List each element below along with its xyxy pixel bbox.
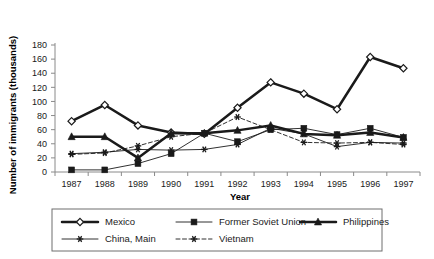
legend-entry-label: Former Soviet Union	[219, 216, 306, 227]
x-axis-tick-label: 1996	[360, 179, 380, 189]
data-point-marker-square	[102, 167, 108, 173]
x-axis-tick-marks	[55, 172, 420, 176]
x-axis-tick-label: 1997	[393, 179, 413, 189]
y-axis-tick-label: 60	[37, 125, 47, 135]
series-mexico	[68, 53, 407, 137]
data-point-marker-square	[191, 219, 197, 225]
legend-entry-former-soviet-union[interactable]: Former Soviet Union	[176, 216, 306, 227]
y-axis-tick-label: 160	[32, 54, 47, 64]
chart-container: Number of immigrants (thousands) 0204060…	[0, 0, 434, 259]
data-point-marker-star	[334, 140, 341, 146]
x-axis-tick-labels: 1987198819891990199119921993199419951996…	[62, 179, 414, 189]
legend-border	[52, 209, 382, 251]
x-axis-tick-label: 1991	[194, 179, 214, 189]
x-axis-tick-label: 1993	[261, 179, 281, 189]
legend-entry-label: Philippines	[343, 216, 389, 227]
y-axis-tick-label: 180	[32, 40, 47, 50]
immigrants-by-country-line-chart: Number of immigrants (thousands) 0204060…	[0, 0, 434, 259]
data-point-marker-star	[301, 140, 308, 146]
data-point-marker-star	[135, 147, 142, 153]
y-axis-tick-marks	[51, 45, 55, 172]
x-axis-tick-label: 1994	[294, 179, 314, 189]
chart-legend: MexicoFormer Soviet UnionPhilippinesChin…	[52, 209, 389, 251]
data-point-marker-star	[234, 114, 241, 120]
data-point-marker-square	[168, 151, 174, 157]
y-axis-tick-labels: 020406080100120140160180	[32, 40, 47, 177]
y-axis-tick-label: 140	[32, 68, 47, 78]
x-axis-title: Year	[230, 191, 250, 202]
data-point-marker-star	[135, 143, 142, 149]
series-line	[72, 57, 404, 134]
y-axis-title: Number of immigrants (thousands)	[7, 36, 18, 194]
data-point-marker-star	[367, 140, 374, 146]
x-axis-tick-label: 1992	[227, 179, 247, 189]
data-point-marker-star	[201, 147, 208, 153]
legend-entry-china-main[interactable]: China, Main	[62, 233, 156, 244]
legend-entry-philippines[interactable]: Philippines	[300, 216, 389, 227]
legend-entry-label: Mexico	[105, 216, 135, 227]
y-axis-tick-label: 0	[42, 167, 47, 177]
x-axis-tick-label: 1995	[327, 179, 347, 189]
x-axis-tick-label: 1988	[95, 179, 115, 189]
x-axis-tick-label: 1987	[62, 179, 82, 189]
data-point-marker-star	[77, 236, 84, 242]
legend-entry-mexico[interactable]: Mexico	[62, 216, 135, 227]
y-axis-tick-label: 100	[32, 97, 47, 107]
y-axis-tick-label: 80	[37, 111, 47, 121]
x-axis-title-label: Year	[230, 191, 250, 202]
data-point-marker-diamond	[400, 65, 407, 72]
x-axis-tick-label: 1990	[161, 179, 181, 189]
x-axis-tick-label: 1989	[128, 179, 148, 189]
data-point-marker-star	[191, 236, 198, 242]
y-axis-title-label: Number of immigrants (thousands)	[7, 36, 18, 194]
y-axis-tick-label: 120	[32, 83, 47, 93]
data-point-marker-square	[69, 167, 75, 173]
legend-entry-label: Vietnam	[219, 233, 254, 244]
data-point-marker-star	[334, 144, 341, 150]
series-layer	[68, 53, 407, 172]
y-axis-tick-label: 20	[37, 153, 47, 163]
data-point-marker-square	[135, 161, 141, 167]
data-point-marker-diamond	[76, 218, 83, 225]
y-axis-tick-label: 40	[37, 139, 47, 149]
legend-entry-label: China, Main	[105, 233, 156, 244]
legend-entry-vietnam[interactable]: Vietnam	[176, 233, 254, 244]
